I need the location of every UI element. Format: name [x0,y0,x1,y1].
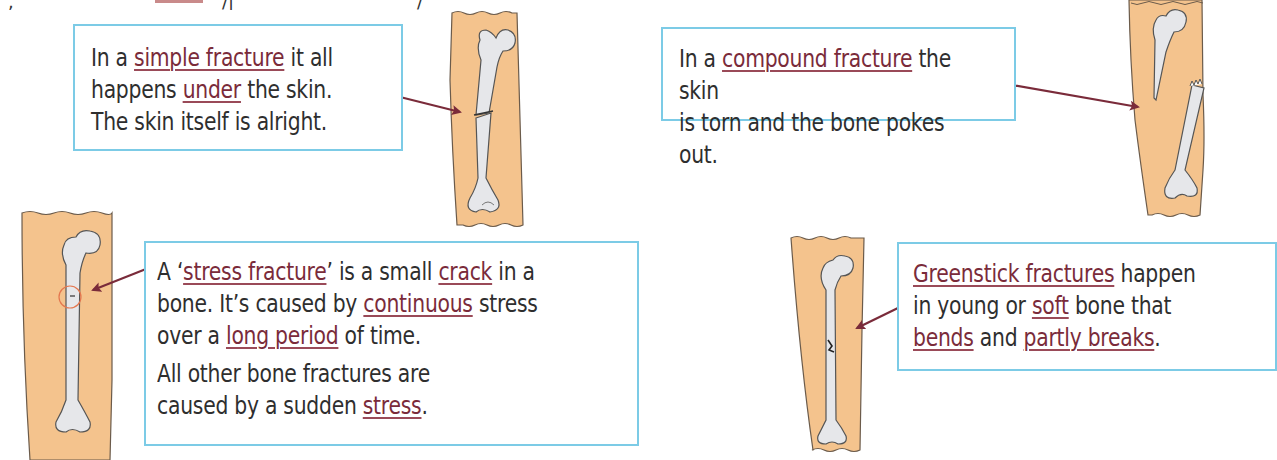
text: stress [473,289,538,318]
text: in a [492,257,535,286]
text: bone that [1069,291,1171,320]
compound-line-2: is torn and the bone pokes out. [679,107,957,171]
cut-off-previous-line: , /| / [0,0,1265,10]
text: of time. [338,321,421,350]
keyword-greenstick-fractures: Greenstick fractures [913,259,1114,288]
compound-line-1: In a compound fracture the skin [679,43,957,107]
green-line-1: Greenstick fractures happen [913,258,1213,290]
cut-off-text-fragment: , [8,0,14,10]
keyword-partly-breaks: partly breaks [1024,323,1155,352]
simple-line-3: The skin itself is alright. [91,106,348,138]
stress-line-4: All other bone fractures are [157,358,555,390]
keyword-continuous: continuous [363,289,472,318]
text: bone. It’s caused by [157,289,363,318]
text: . [421,391,427,420]
green-line-2: in young or soft bone that [913,290,1213,322]
text: in young or [913,291,1032,320]
simple-line-1: In a simple fracture it all [91,42,348,74]
stress-line-1: A ‘stress fracture’ is a small crack in … [157,256,555,288]
simple-line-2: happens under the skin. [91,74,348,106]
compound-fracture-leg-illustration [995,0,1204,217]
text: ’ is a small [326,257,438,286]
text: . [1154,323,1160,352]
greenstick-fracture-leg-illustration [791,237,900,452]
text: A ‘ [157,257,183,286]
text: caused by a sudden [157,391,363,420]
keyword-compound-fracture: compound fracture [722,44,912,73]
text: happen [1114,259,1195,288]
cut-off-text-fragment: / [417,0,423,10]
text: it all [284,43,333,72]
text: happens [91,75,183,104]
greenstick-fracture-callout: Greenstick fractures happen in young or … [897,242,1277,371]
stress-line-5: caused by a sudden stress. [157,390,555,422]
text: the skin. [241,75,332,104]
text: In a [679,44,722,73]
text: and [974,323,1024,352]
keyword-soft: soft [1032,291,1069,320]
simple-fracture-callout: In a simple fracture it all happens unde… [73,24,403,151]
green-line-3: bends and partly breaks. [913,322,1213,354]
keyword-stress-fracture: stress fracture [183,257,326,286]
compound-fracture-callout: In a compound fracture the skin is torn … [661,27,1016,121]
stress-fracture-callout: A ‘stress fracture’ is a small crack in … [144,241,639,446]
keyword-simple-fracture: simple fracture [134,43,284,72]
keyword-crack: crack [438,257,492,286]
text: over a [157,321,226,350]
stress-fracture-leg-illustration [22,212,146,460]
cut-off-text-fragment: /| [222,0,234,10]
keyword-long-period: long period [226,321,338,350]
keyword-stress: stress [363,391,422,420]
cut-off-underline-fragment [155,0,203,3]
text: In a [91,43,134,72]
stress-line-2: bone. It’s caused by continuous stress [157,288,555,320]
stress-line-3: over a long period of time. [157,320,555,352]
keyword-bends: bends [913,323,974,352]
keyword-under: under [183,75,241,104]
